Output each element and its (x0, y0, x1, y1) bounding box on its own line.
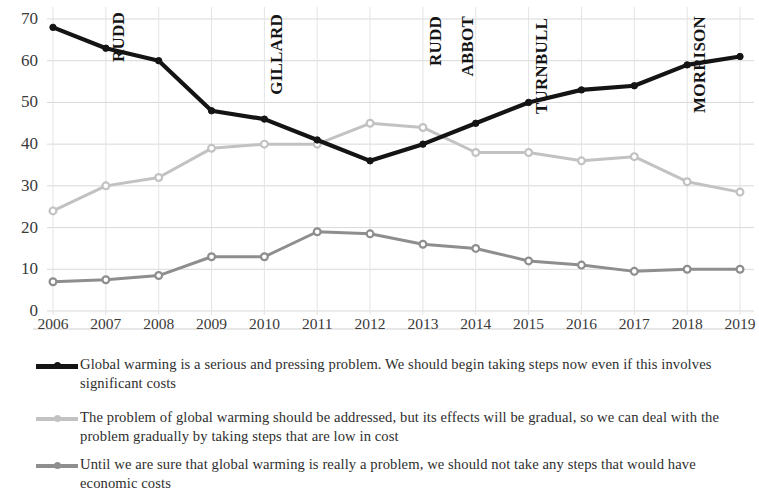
data-point (155, 58, 161, 64)
x-axis-tick-label: 2006 (30, 315, 76, 333)
data-point (578, 262, 585, 269)
data-point (155, 272, 162, 279)
legend-item[interactable]: The problem of global warming should be … (34, 408, 749, 445)
data-point (367, 230, 374, 237)
legend-marker-icon (54, 415, 61, 422)
data-point (631, 153, 638, 160)
x-axis-tick-label: 2011 (294, 315, 340, 333)
data-point (50, 24, 56, 30)
data-point (737, 189, 744, 196)
data-point (420, 124, 427, 131)
data-point (50, 278, 57, 285)
legend-label: Until we are sure that global warming is… (80, 455, 740, 492)
legend-swatch (34, 457, 80, 474)
data-point (472, 245, 479, 252)
legend-label: The problem of global warming should be … (80, 408, 740, 445)
series-line (53, 123, 740, 211)
legend-marker-icon (54, 462, 61, 469)
x-axis-tick-label: 2012 (347, 315, 393, 333)
data-point (525, 258, 532, 265)
data-point (578, 87, 584, 93)
pm-annotation-label: RUDD (109, 12, 129, 62)
data-point (684, 178, 691, 185)
data-point (102, 276, 109, 283)
data-point (737, 266, 744, 273)
line-chart: 010203040506070 RUDDGILLARDRUDDABBOTTURN… (0, 0, 759, 495)
legend-label: Global warming is a serious and pressing… (80, 355, 740, 392)
series-3 (50, 228, 744, 285)
series-2 (50, 120, 744, 214)
pm-annotation-label: RUDD (426, 16, 446, 66)
x-axis-tick-label: 2015 (506, 315, 552, 333)
x-axis-tick-label: 2008 (136, 315, 182, 333)
x-axis-tick-label: 2007 (83, 315, 129, 333)
data-point (420, 141, 426, 147)
pm-annotation-label: MORRISON (690, 16, 710, 113)
data-point (208, 253, 215, 260)
x-axis-tick-label: 2019 (717, 315, 759, 333)
x-axis-tick-label: 2013 (400, 315, 446, 333)
horizontal-gridlines (47, 19, 754, 311)
data-point (525, 149, 532, 156)
data-point (261, 141, 268, 148)
chart-legend: Global warming is a serious and pressing… (0, 352, 759, 495)
data-point (525, 99, 531, 105)
x-axis-tick-label: 2009 (189, 315, 235, 333)
data-point (684, 266, 691, 273)
data-point (208, 145, 215, 152)
data-point (631, 83, 637, 89)
series-line (53, 27, 740, 160)
data-point (50, 207, 57, 214)
data-point (473, 120, 479, 126)
data-point (261, 116, 267, 122)
data-point (631, 268, 638, 275)
legend-swatch (34, 410, 80, 427)
x-axis-tick-label: 2016 (558, 315, 604, 333)
x-axis-tick-label: 2017 (611, 315, 657, 333)
x-axis-tick-label: 2014 (453, 315, 499, 333)
data-point (367, 120, 374, 127)
legend-item[interactable]: Until we are sure that global warming is… (34, 455, 749, 492)
data-point (472, 149, 479, 156)
x-axis: 2006200720082009201020112012201320142015… (0, 307, 759, 337)
legend-marker-icon (54, 362, 61, 369)
data-point (367, 158, 373, 164)
x-axis-tick-label: 2010 (241, 315, 287, 333)
pm-annotation-label: TURNBULL (532, 18, 552, 114)
data-point (578, 157, 585, 164)
data-point (208, 108, 214, 114)
series-1 (50, 24, 743, 164)
data-point (261, 253, 268, 260)
data-point (314, 137, 320, 143)
data-point (737, 53, 743, 59)
x-axis-tick-label: 2018 (664, 315, 710, 333)
pm-annotation-label: GILLARD (267, 14, 287, 95)
legend-item[interactable]: Global warming is a serious and pressing… (34, 355, 749, 392)
legend-swatch (34, 357, 80, 374)
pm-annotation-label: ABBOT (458, 16, 478, 77)
data-point (102, 182, 109, 189)
data-point (155, 174, 162, 181)
data-point (420, 241, 427, 248)
data-point (314, 228, 321, 235)
